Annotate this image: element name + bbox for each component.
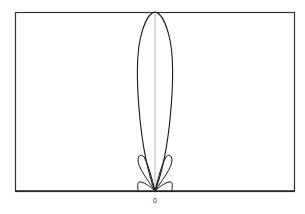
x-tick-label-origin: 0 [145,197,165,204]
radiation-pattern-chart [0,0,305,214]
